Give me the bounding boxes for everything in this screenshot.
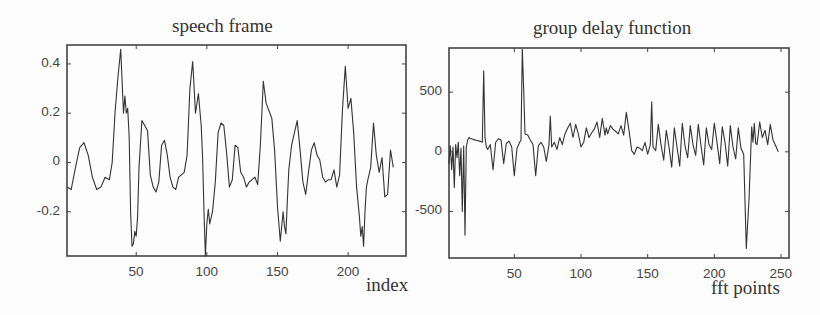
right-x-tick-label: 250 — [770, 266, 793, 281]
left-y-tick-label: -0.2 — [37, 203, 60, 218]
left-chart-speech-frame — [67, 45, 406, 256]
right-data-line — [449, 49, 778, 248]
left-data-line — [67, 49, 393, 256]
right-x-tick-label: 100 — [570, 266, 593, 281]
right-y-tick-label: 0 — [434, 143, 442, 158]
right-chart-group-delay — [449, 48, 789, 258]
right-axes-frame — [449, 48, 789, 258]
left-y-tick-label: 0.2 — [41, 104, 60, 119]
left-x-tick-label: 200 — [337, 264, 360, 279]
charts-canvas — [0, 0, 820, 315]
left-x-tick-label: 150 — [266, 264, 289, 279]
left-y-tick-label: 0 — [52, 153, 60, 168]
right-y-tick-label: 500 — [419, 83, 442, 98]
left-y-tick-label: 0.4 — [41, 55, 60, 70]
right-y-tick-label: -500 — [415, 202, 442, 217]
left-x-tick-label: 50 — [129, 264, 144, 279]
left-x-tick-label: 100 — [195, 264, 218, 279]
right-x-tick-label: 150 — [636, 266, 659, 281]
right-x-tick-label: 50 — [507, 266, 522, 281]
right-x-tick-label: 200 — [703, 266, 726, 281]
